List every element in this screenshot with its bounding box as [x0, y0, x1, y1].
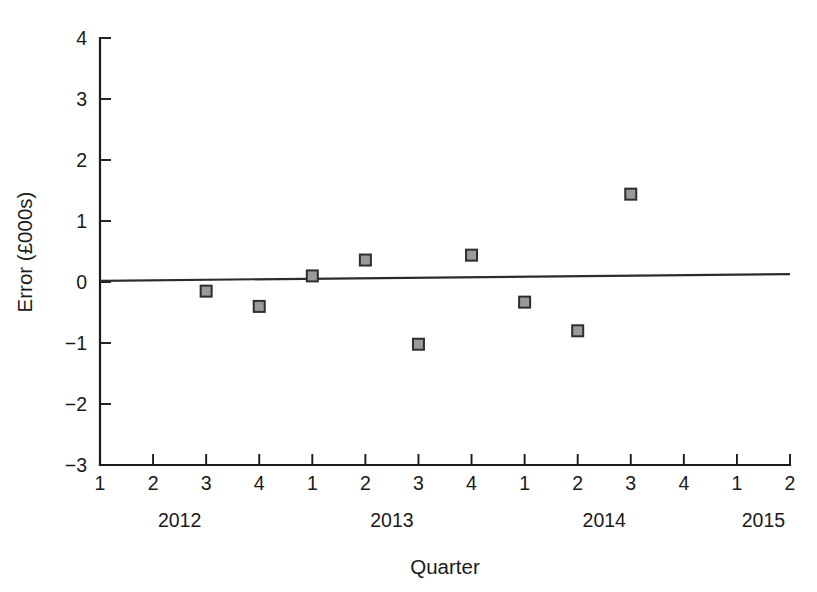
- data-point-marker: [625, 189, 636, 200]
- x-tick-label: 2: [360, 472, 371, 494]
- y-tick-label: 0: [76, 271, 87, 293]
- x-tick-label: 2: [148, 472, 159, 494]
- x-axis-year-label: 2014: [583, 509, 627, 531]
- data-point-marker: [307, 270, 318, 281]
- trend-line-group: [100, 274, 790, 281]
- residual-error-scatter-chart: −3−2−101234 12341234123412 2012201320142…: [0, 0, 817, 592]
- y-tick-label: 3: [76, 88, 87, 110]
- x-tick-label: 1: [307, 472, 318, 494]
- x-tick-label: 4: [254, 472, 265, 494]
- x-tick-label: 3: [201, 472, 212, 494]
- data-point-marker: [360, 255, 371, 266]
- y-tick-label: 4: [76, 27, 87, 49]
- x-axis-year-label: 2012: [158, 509, 201, 531]
- data-point-marker: [201, 286, 212, 297]
- x-axis-year-labels: 2012201320142015: [158, 509, 785, 531]
- data-point-marker: [254, 301, 265, 312]
- y-axis-tick-labels: −3−2−101234: [65, 27, 87, 476]
- x-tick-label: 4: [678, 472, 689, 494]
- x-axis-title: Quarter: [410, 555, 480, 578]
- x-tick-label: 2: [785, 472, 796, 494]
- x-axis-tick-labels: 12341234123412: [95, 472, 796, 494]
- data-markers-group: [201, 189, 637, 350]
- x-axis-year-label: 2013: [370, 509, 413, 531]
- y-tick-label: 2: [76, 149, 87, 171]
- chart-container: −3−2−101234 12341234123412 2012201320142…: [0, 0, 817, 592]
- x-axis-ticks: [100, 454, 790, 465]
- y-tick-label: −3: [65, 454, 87, 476]
- y-tick-label: −2: [65, 393, 87, 415]
- data-point-marker: [572, 325, 583, 336]
- data-point-marker: [519, 297, 530, 308]
- y-axis-title: Error (£000s): [13, 192, 36, 313]
- data-point-marker: [413, 339, 424, 350]
- y-tick-label: −1: [65, 332, 87, 354]
- x-tick-label: 1: [95, 472, 106, 494]
- axes-group: [100, 38, 790, 465]
- y-tick-label: 1: [76, 210, 87, 232]
- x-tick-label: 3: [413, 472, 424, 494]
- trend-line: [100, 274, 790, 281]
- x-tick-label: 1: [519, 472, 530, 494]
- data-point-marker: [466, 250, 477, 261]
- y-axis-ticks: [100, 38, 111, 465]
- x-tick-label: 1: [731, 472, 742, 494]
- x-tick-label: 4: [466, 472, 477, 494]
- x-tick-label: 2: [572, 472, 583, 494]
- x-tick-label: 3: [625, 472, 636, 494]
- x-axis-year-label: 2015: [742, 509, 786, 531]
